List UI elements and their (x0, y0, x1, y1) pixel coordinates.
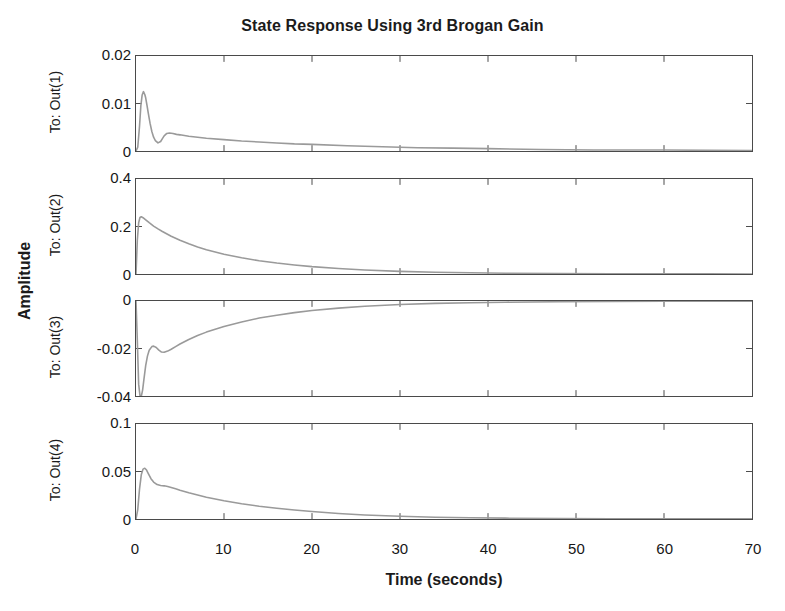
subplot-1 (135, 55, 753, 152)
subplot-plot-area-2 (136, 179, 752, 274)
subplot-plot-area-4 (136, 424, 752, 519)
x-tick-label: 40 (458, 540, 518, 557)
subplot-4-label: To: Out(4) (46, 421, 62, 518)
y-tick-label: 0 (61, 291, 131, 308)
x-tick-label: 30 (370, 540, 430, 557)
x-tick-label: 60 (635, 540, 695, 557)
subplot-4-y-tick-labels: 00.050.1 (55, 423, 131, 520)
subplot-3-y-tick-labels: 0-0.02-0.04 (55, 300, 131, 397)
subplot-3-label: To: Out(3) (46, 298, 62, 395)
data-series-line (136, 92, 752, 151)
subplot-3 (135, 300, 753, 397)
y-tick-label: 0.4 (61, 169, 131, 186)
figure-canvas: State Response Using 3rd Brogan Gain Amp… (0, 0, 785, 611)
chart-title: State Response Using 3rd Brogan Gain (0, 17, 785, 35)
subplot-2 (135, 178, 753, 275)
subplot-1-label: To: Out(1) (46, 53, 62, 150)
subplot-2-y-tick-labels: 00.20.4 (55, 178, 131, 275)
subplot-2-label: To: Out(2) (46, 176, 62, 273)
data-series-line (136, 301, 752, 396)
x-tick-label: 50 (546, 540, 606, 557)
y-tick-label: 0.1 (61, 414, 131, 431)
data-series-line (136, 468, 752, 519)
y-tick-label: 0 (61, 511, 131, 528)
y-tick-label: 0.05 (61, 463, 131, 480)
x-tick-label: 0 (105, 540, 165, 557)
subplot-plot-area-1 (136, 56, 752, 151)
x-tick-label: 70 (723, 540, 783, 557)
data-series-line (136, 217, 752, 274)
subplot-4 (135, 423, 753, 520)
y-tick-label: 0.2 (61, 218, 131, 235)
y-tick-label: -0.04 (61, 388, 131, 405)
subplot-plot-area-3 (136, 301, 752, 396)
y-tick-label: -0.02 (61, 340, 131, 357)
y-axis-label: Amplitude (16, 211, 34, 351)
y-tick-label: 0.02 (61, 46, 131, 63)
y-tick-label: 0 (61, 266, 131, 283)
y-tick-label: 0 (61, 143, 131, 160)
x-axis-label: Time (seconds) (135, 571, 753, 589)
subplot-1-y-tick-labels: 00.010.02 (55, 55, 131, 152)
y-tick-label: 0.01 (61, 95, 131, 112)
x-tick-label: 10 (193, 540, 253, 557)
x-tick-label: 20 (282, 540, 342, 557)
